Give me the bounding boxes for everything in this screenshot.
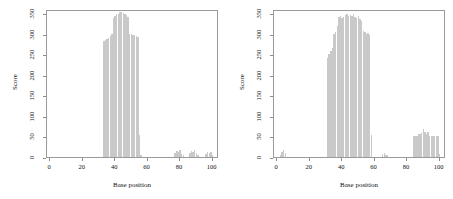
x-axis-tick-label: 80 (396, 163, 416, 170)
x-axis-tick-label: 100 (429, 163, 449, 170)
y-axis-tick (270, 137, 273, 138)
y-axis-title-right: Score (238, 8, 246, 156)
x-axis-tick-label: 0 (266, 163, 286, 170)
bars-container-left (47, 11, 217, 157)
y-axis-tick-label: 350 (28, 4, 35, 24)
x-axis-tick-label: 60 (364, 163, 384, 170)
y-axis-tick (270, 35, 273, 36)
x-axis-title-right: Base position (273, 181, 445, 189)
x-axis-title-left: Base position (46, 181, 218, 189)
bar (140, 155, 141, 157)
plot-frame-right (273, 10, 445, 158)
plot-frame-left (46, 10, 218, 158)
bar (439, 154, 440, 157)
figure-root: 050100150200250300350020406080100 Base p… (0, 0, 453, 199)
x-axis-tick (374, 158, 375, 161)
x-axis-tick-label: 40 (331, 163, 351, 170)
bar (285, 153, 286, 157)
x-axis-tick (82, 158, 83, 161)
y-axis-tick-label: 0 (28, 148, 35, 168)
y-axis-tick-label: 200 (28, 65, 35, 85)
y-axis-tick (43, 158, 46, 159)
y-axis-tick-label: 50 (28, 127, 35, 147)
y-axis-tick-label: 150 (28, 86, 35, 106)
y-axis-tick-label: 100 (28, 106, 35, 126)
bar (183, 155, 184, 157)
x-axis-tick-label: 80 (169, 163, 189, 170)
y-axis-tick-label: 200 (255, 65, 262, 85)
x-axis-tick (276, 158, 277, 161)
y-axis-tick (43, 117, 46, 118)
y-axis-tick-label: 50 (255, 127, 262, 147)
y-axis-tick (43, 35, 46, 36)
y-axis-tick (43, 76, 46, 77)
x-axis-tick-label: 20 (72, 163, 92, 170)
bars-container-right (274, 11, 444, 157)
y-axis-tick (43, 96, 46, 97)
x-axis-tick (212, 158, 213, 161)
y-axis-tick (43, 137, 46, 138)
y-axis-tick-label: 300 (255, 24, 262, 44)
chart-panel-left: 050100150200250300350020406080100 Base p… (0, 0, 226, 199)
bar (387, 155, 388, 157)
x-axis-tick (309, 158, 310, 161)
chart-panel-right: 050100150200250300350020406080100 Base p… (227, 0, 453, 199)
y-axis-tick-label: 0 (255, 148, 262, 168)
x-axis-tick (114, 158, 115, 161)
x-axis-tick (49, 158, 50, 161)
bar (212, 155, 213, 157)
y-axis-tick-label: 150 (255, 86, 262, 106)
y-axis-tick (43, 55, 46, 56)
x-axis-tick-label: 20 (299, 163, 319, 170)
y-axis-tick (270, 96, 273, 97)
y-axis-title-left: Score (11, 8, 19, 156)
x-axis-tick (406, 158, 407, 161)
bar (139, 135, 140, 157)
x-axis-tick (179, 158, 180, 161)
x-axis-tick (147, 158, 148, 161)
y-axis-tick-label: 100 (255, 106, 262, 126)
y-axis-tick (270, 14, 273, 15)
bar (371, 135, 372, 157)
y-axis-tick-label: 300 (28, 24, 35, 44)
y-axis-tick (270, 117, 273, 118)
x-axis-tick-label: 0 (39, 163, 59, 170)
y-axis-tick-label: 250 (255, 45, 262, 65)
y-axis-tick-label: 350 (255, 4, 262, 24)
x-axis-tick-label: 60 (137, 163, 157, 170)
y-axis-tick (270, 55, 273, 56)
y-axis-tick (270, 76, 273, 77)
bar (197, 155, 198, 157)
x-axis-tick-label: 100 (202, 163, 222, 170)
x-axis-tick-label: 40 (104, 163, 124, 170)
y-axis-tick (270, 158, 273, 159)
y-axis-tick-label: 250 (28, 45, 35, 65)
y-axis-tick (43, 14, 46, 15)
x-axis-tick (341, 158, 342, 161)
x-axis-tick (439, 158, 440, 161)
